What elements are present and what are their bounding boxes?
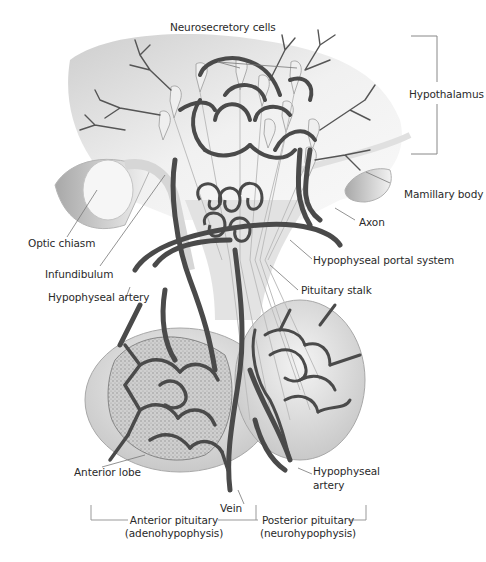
label-neurosecretory-cells: Neurosecretory cells [170, 21, 276, 34]
pituitary-illustration [0, 0, 486, 562]
label-infundibulum: Infundibulum [45, 268, 113, 281]
label-posterior-pituitary: Posterior pituitary (neurohypophysis) [258, 514, 358, 540]
label-posterior-pituitary-line1: Posterior pituitary [258, 514, 358, 527]
label-pituitary-stalk: Pituitary stalk [301, 284, 372, 297]
label-anterior-lobe: Anterior lobe [74, 466, 141, 479]
label-hypophyseal-artery-lower-1: Hypophyseal [313, 465, 380, 478]
label-hypophyseal-artery-upper: Hypophyseal artery [48, 291, 149, 304]
label-mamillary-body: Mamillary body [404, 188, 483, 201]
label-hypophyseal-portal-system: Hypophyseal portal system [313, 254, 454, 267]
label-axon: Axon [359, 216, 385, 229]
label-hypophyseal-artery-lower-2: artery [313, 479, 344, 492]
label-hypothalamus: Hypothalamus [409, 88, 484, 101]
label-anterior-pituitary: Anterior pituitary (adenohypophysis) [122, 514, 226, 540]
label-anterior-pituitary-line1: Anterior pituitary [122, 514, 226, 527]
label-posterior-pituitary-line2: (neurohypophysis) [258, 527, 358, 540]
label-anterior-pituitary-line2: (adenohypophysis) [122, 527, 226, 540]
label-optic-chiasm: Optic chiasm [28, 237, 95, 250]
